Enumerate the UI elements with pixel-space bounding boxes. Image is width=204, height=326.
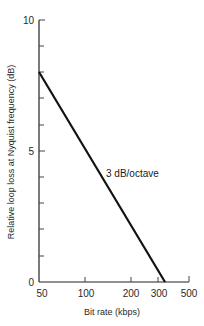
y-tick-label-10: 10 — [23, 15, 35, 26]
x-tick-label-100: 100 — [78, 288, 95, 299]
x-tick-label-500: 500 — [181, 288, 198, 299]
y-tick-label-5: 5 — [28, 146, 34, 157]
x-axis-label: Bit rate (kbps) — [84, 307, 140, 317]
y-ticks — [39, 20, 45, 256]
x-ticks — [85, 276, 189, 282]
y-axis-label: Relative loop loss at Nyquist frequency … — [6, 65, 16, 240]
x-tick-label-50: 50 — [36, 288, 48, 299]
y-tick-label-0: 0 — [28, 277, 34, 288]
x-tick-label-200: 200 — [123, 288, 140, 299]
x-tick-label-300: 300 — [151, 288, 168, 299]
slope-annotation: 3 dB/octave — [106, 168, 159, 179]
chart: 10 5 0 50 100 200 300 500 Bit rate (kbps… — [0, 0, 204, 326]
